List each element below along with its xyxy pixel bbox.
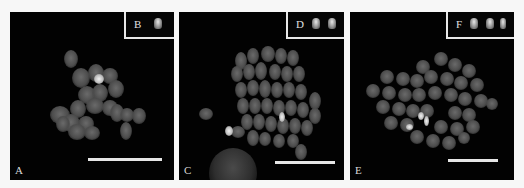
inset-chromosome [486,18,494,29]
micrograph-panel-a: B A [10,12,174,180]
inset-d: D [286,12,344,39]
panel-label-e: E [355,164,362,176]
fish-signal [406,124,413,130]
inset-f: F [446,12,514,39]
inset-chromosome [470,18,478,29]
scale-bar [448,159,498,162]
panel-label-c: C [184,164,191,176]
fish-signal [94,74,104,84]
scale-bar [88,158,162,161]
fish-signal [279,112,285,122]
inset-chromosome [328,18,336,29]
inset-label-f: F [456,18,462,30]
inset-chromosome [312,18,320,29]
interphase-nucleus [209,148,257,180]
fish-signal [424,116,429,126]
scale-bar [275,161,335,164]
micrograph-panel-e: F E [350,12,514,180]
inset-chromosome [154,18,162,29]
panel-label-a: A [15,164,23,176]
micrograph-panel-c: D C [179,12,344,180]
inset-b: B [124,12,174,39]
inset-chromosome [500,18,506,29]
fish-signal [225,126,233,136]
inset-label-d: D [296,18,304,30]
inset-label-b: B [134,18,141,30]
